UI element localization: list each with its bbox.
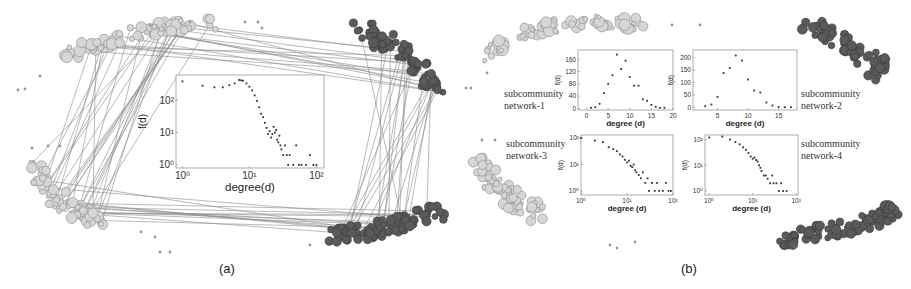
network-node: [494, 139, 497, 142]
x-tick-label: 10¹: [242, 170, 257, 181]
network-node: [609, 244, 612, 247]
data-point: [309, 154, 311, 156]
data-point: [633, 85, 635, 87]
subcommunity-label-3: subcommunity network-3: [506, 138, 565, 162]
network-node: [847, 41, 856, 50]
data-point: [238, 79, 240, 81]
network-node: [59, 203, 66, 210]
network-node: [812, 32, 819, 39]
data-point: [298, 164, 300, 166]
subcommunity-label-4: subcommunity network-4: [801, 138, 860, 162]
data-point: [668, 190, 670, 192]
x-axis-label: degree (d): [732, 204, 771, 213]
network-node: [47, 145, 50, 148]
data-point: [711, 104, 713, 106]
network-node: [309, 244, 312, 247]
network-node: [412, 206, 420, 214]
x-tick-label: 5: [606, 112, 610, 119]
data-point: [760, 167, 762, 169]
figure: 10⁰10¹10²10⁰10¹10²degree(d)f(d)051015200…: [0, 0, 911, 289]
data-point: [704, 105, 706, 107]
network-node: [379, 217, 385, 223]
data-point: [782, 190, 784, 192]
y-tick-label: 10⁰: [693, 187, 703, 194]
data-point: [625, 60, 627, 62]
network-node: [54, 197, 60, 203]
data-point: [279, 135, 281, 137]
data-point: [656, 182, 658, 184]
plot-frame: [693, 50, 797, 110]
data-point: [790, 106, 792, 108]
data-point: [273, 126, 275, 128]
network-node: [530, 27, 534, 31]
data-point: [608, 146, 610, 148]
data-point: [784, 106, 786, 108]
network-node: [115, 38, 125, 48]
network-node: [810, 234, 820, 244]
data-point: [616, 150, 618, 152]
network-edge: [427, 74, 432, 222]
data-point: [670, 190, 672, 192]
data-point: [729, 139, 731, 141]
network-node: [403, 52, 409, 58]
network-node: [45, 200, 53, 208]
network-node: [159, 251, 162, 254]
y-tick-label: 50: [684, 91, 692, 98]
y-tick-label: 10⁰: [159, 159, 174, 170]
x-tick-label: 5: [716, 112, 720, 119]
cluster-a-bottom-left: [27, 160, 108, 230]
network-node: [579, 23, 586, 30]
data-point: [659, 107, 661, 109]
panel-b-label: (b): [681, 261, 697, 276]
network-node: [513, 185, 521, 193]
data-point: [240, 79, 242, 81]
network-node: [39, 75, 42, 78]
network-node: [422, 60, 430, 68]
data-point: [750, 156, 752, 158]
network-node: [49, 185, 59, 195]
network-node: [366, 229, 375, 238]
network-node: [116, 30, 123, 37]
network-node: [154, 236, 157, 239]
network-node: [127, 25, 134, 32]
data-point: [594, 106, 596, 108]
data-point: [254, 95, 256, 97]
chart-b-3: 10⁰10¹10²10⁰10¹10²degree (d)f(d): [557, 134, 679, 213]
data-point: [665, 182, 667, 184]
network-node: [499, 48, 504, 53]
data-point: [234, 83, 236, 85]
data-point: [284, 145, 286, 147]
data-point: [742, 146, 744, 148]
y-tick-label: 100: [680, 79, 691, 86]
network-node: [77, 37, 87, 47]
network-node: [166, 26, 177, 37]
network-node: [509, 194, 517, 202]
data-point: [771, 175, 773, 177]
network-node: [179, 18, 184, 23]
network-node: [261, 27, 264, 30]
data-point: [729, 67, 731, 69]
data-point: [281, 149, 283, 151]
network-node: [888, 204, 896, 212]
network-node: [359, 35, 366, 42]
y-axis-label: f(d): [681, 160, 689, 170]
network-node: [481, 139, 484, 142]
data-point: [602, 141, 604, 143]
data-point: [295, 145, 297, 147]
data-point: [761, 170, 763, 172]
network-node: [539, 204, 545, 210]
chart-b-1: 0510152004080120160degree (d)f(d): [554, 50, 677, 128]
x-axis-label: degree (d): [608, 204, 647, 213]
subcommunity-label-1: subcommunity network-1: [504, 88, 563, 112]
data-point: [222, 86, 224, 88]
data-point: [287, 164, 289, 166]
network-node: [583, 17, 588, 22]
network-node: [213, 27, 219, 33]
x-axis-label: degree(d): [225, 181, 275, 193]
network-node: [553, 28, 558, 33]
network-node: [486, 72, 489, 75]
x-tick-label: 10²: [309, 170, 324, 181]
data-point: [747, 79, 749, 81]
data-point: [651, 104, 653, 106]
network-node: [398, 46, 404, 52]
